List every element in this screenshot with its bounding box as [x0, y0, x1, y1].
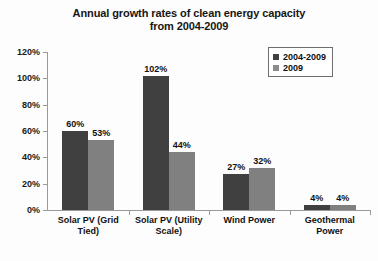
- chart-title: Annual growth rates of clean energy capa…: [0, 7, 378, 33]
- legend-label-series-2: 2009: [283, 63, 303, 73]
- y-axis-tick-label: 0%: [0, 206, 40, 215]
- bar-value-label: 102%: [137, 65, 175, 74]
- category-label-3: GeothermalPower: [284, 215, 377, 237]
- y-axis-tick-label: 60%: [0, 127, 40, 136]
- category-label-line: Scale): [123, 226, 216, 237]
- category-label-line: Wind Power: [203, 215, 296, 226]
- bar-value-label: 32%: [243, 157, 281, 166]
- category-label-2: Wind Power: [203, 215, 296, 226]
- bar-series-2-2: [249, 168, 275, 210]
- chart-title-line-1: Annual growth rates of clean energy capa…: [0, 7, 378, 20]
- legend-item-series-1: 2004-2009: [273, 51, 326, 62]
- y-axis-tick-label: 100%: [0, 74, 40, 83]
- bar-value-label: 60%: [56, 120, 94, 129]
- legend-item-series-2: 2009: [273, 62, 326, 73]
- y-axis-tick-label: 40%: [0, 153, 40, 162]
- legend-label-series-1: 2004-2009: [283, 52, 326, 62]
- bar-series-1-3: [304, 205, 330, 210]
- bar-value-label: 53%: [82, 129, 120, 138]
- y-axis-tick-label: 20%: [0, 180, 40, 189]
- category-label-0: Solar PV (GridTied): [42, 215, 135, 237]
- chart-legend: 2004-2009 2009: [268, 47, 333, 77]
- bar-series-1-2: [223, 174, 249, 210]
- y-axis-tick-label: 80%: [0, 101, 40, 110]
- bar-series-2-0: [88, 140, 114, 210]
- bar-series-1-0: [62, 131, 88, 210]
- category-label-line: Geothermal: [284, 215, 377, 226]
- category-label-1: Solar PV (UtilityScale): [123, 215, 216, 237]
- category-label-line: Tied): [42, 226, 135, 237]
- category-label-line: Solar PV (Utility: [123, 215, 216, 226]
- y-axis-tick: [43, 210, 48, 211]
- dark-swatch-icon: [273, 54, 279, 60]
- category-label-line: Power: [284, 226, 377, 237]
- bar-value-label: 4%: [324, 194, 362, 203]
- category-label-line: Solar PV (Grid: [42, 215, 135, 226]
- bar-chart: Annual growth rates of clean energy capa…: [0, 0, 378, 261]
- chart-title-line-2: from 2004-2009: [0, 20, 378, 33]
- bar-value-label: 44%: [163, 141, 201, 150]
- bar-series-2-3: [330, 205, 356, 210]
- y-axis-tick-label: 120%: [0, 48, 40, 57]
- light-swatch-icon: [273, 65, 279, 71]
- bar-series-2-1: [169, 152, 195, 210]
